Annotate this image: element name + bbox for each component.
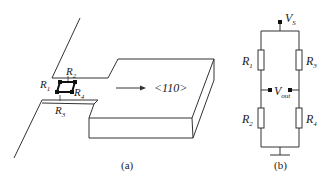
label-r3: R3 xyxy=(55,105,65,119)
label-bridge-r4: R4 xyxy=(306,113,317,128)
label-r4: R4 xyxy=(74,87,84,101)
caption-a: (a) xyxy=(121,160,133,171)
label-r1: R1 xyxy=(40,79,50,93)
label-vout: Vout xyxy=(274,85,290,100)
label-bridge-r3: R3 xyxy=(306,55,317,70)
direction-label: <110> xyxy=(154,82,187,94)
label-r2: R2 xyxy=(66,66,76,80)
label-bridge-r1: R1 xyxy=(242,55,253,70)
label-bridge-r2: R2 xyxy=(242,113,253,128)
label-vs: VS xyxy=(285,12,296,27)
caption-b: (b) xyxy=(274,160,287,171)
